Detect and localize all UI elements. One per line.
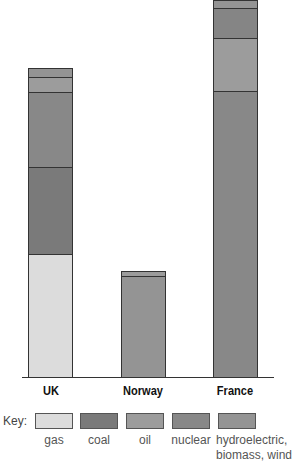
segment-hydro: [122, 276, 165, 378]
legend-swatch-coal: [80, 413, 118, 429]
segment-hydro: [29, 69, 72, 77]
bar-norway: [121, 271, 166, 378]
segment-nuclear: [214, 91, 257, 378]
legend-swatch-nuclear: [172, 413, 210, 429]
segment-coal: [29, 167, 72, 255]
bar-uk: [28, 68, 73, 378]
segment-nuclear: [29, 92, 72, 167]
legend-label-coal: coal: [80, 433, 118, 447]
category-label-norway: Norway: [109, 383, 177, 398]
legend-label-nuclear: nuclear: [168, 433, 214, 447]
legend-label-hydro-2: biomass, wind: [216, 448, 296, 462]
legend-key-label: Key:: [3, 414, 27, 428]
baseline: [22, 377, 274, 378]
segment-coal: [214, 8, 257, 38]
legend-label-oil: oil: [126, 433, 164, 447]
legend-label-gas: gas: [35, 433, 73, 447]
legend-label-hydro: hydroelectric,: [216, 433, 296, 447]
segment-oil: [29, 77, 72, 92]
segment-oil: [214, 38, 257, 91]
legend-swatch-gas: [35, 413, 73, 429]
bar-france: [213, 0, 258, 378]
segment-hydro: [214, 1, 257, 8]
legend-swatch-oil: [126, 413, 164, 429]
category-label-uk: UK: [17, 383, 85, 398]
category-label-france: France: [201, 383, 269, 398]
segment-gas: [29, 254, 72, 378]
legend-swatch-hydro: [218, 413, 256, 429]
